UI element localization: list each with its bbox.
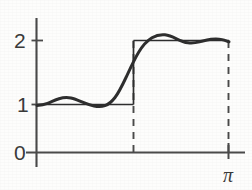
figure-container: 2 1 0 π <box>0 0 252 190</box>
gibbs-phenomenon-chart: 2 1 0 π <box>0 0 252 190</box>
y-tick-label-0: 0 <box>14 141 26 164</box>
x-tick-label-pi: π <box>223 164 234 186</box>
step-function-path <box>37 41 229 105</box>
y-tick-label-2: 2 <box>14 29 26 52</box>
y-tick-label-1: 1 <box>17 93 29 116</box>
